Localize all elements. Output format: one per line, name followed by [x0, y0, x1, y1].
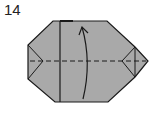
origami-diagram [0, 0, 155, 114]
